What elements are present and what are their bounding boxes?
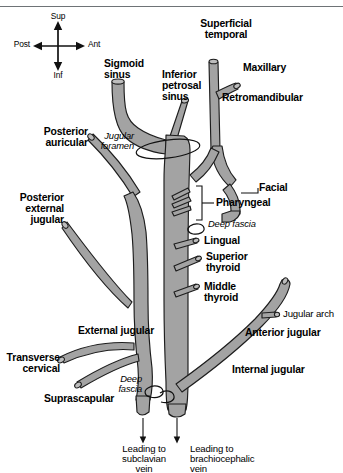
label-leading-to-brachiocephalic: Leading to brachiocephalic vein: [190, 444, 290, 473]
label-superior-thyroid: Superior thyroid: [206, 251, 248, 273]
label-retromandibular: Retromandibular: [222, 92, 303, 103]
posterior-external-jugular-vein: [61, 221, 132, 308]
compass-label-superior: Sup: [45, 12, 71, 21]
compass-label-inferior: Inf: [45, 71, 71, 80]
superficial-temporal-vein: [209, 59, 220, 150]
pharyngeal-bracket: [196, 186, 214, 220]
label-pharyngeal: Pharyngeal: [216, 197, 271, 208]
label-anterior-jugular: Anterior jugular: [245, 327, 321, 338]
label-external-jugular: External jugular: [78, 325, 154, 336]
internal-jugular-vein: [164, 135, 190, 417]
orientation-compass: [33, 21, 85, 71]
facial-leader-line: [241, 188, 258, 193]
label-sigmoid-sinus: Sigmoid sinus: [104, 58, 144, 80]
label-leading-to-subclavian: Leading to subclavian vein: [108, 444, 180, 473]
jugular-arch-vein: [262, 312, 280, 318]
label-deep-fascia-lower: Deep fascia: [96, 374, 142, 394]
label-maxillary: Maxillary: [243, 62, 286, 73]
deep-fascia-ring-upper: [188, 224, 204, 234]
label-internal-jugular: Internal jugular: [232, 364, 305, 375]
label-posterior-external-jugular: Posterior external jugular: [0, 192, 64, 225]
retromandibular-vein: [190, 146, 236, 187]
label-inferior-petrosal-sinus: Inferior petrosal sinus: [162, 69, 201, 102]
direction-arrows: [143, 418, 177, 440]
label-suprascapular: Suprascapular: [44, 393, 114, 404]
label-facial: Facial: [259, 182, 288, 193]
anatomical-figure: Sup Inf Ant Post Sigmoid sinus Inferior …: [0, 0, 343, 473]
label-lingual: Lingual: [204, 235, 240, 246]
label-middle-thyroid: Middle thyroid: [204, 281, 238, 303]
label-posterior-auricular: Posterior auricular: [0, 126, 88, 148]
compass-label-posterior: Post: [0, 40, 30, 49]
compass-label-anterior: Ant: [88, 40, 100, 49]
label-deep-fascia-upper: Deep fascia: [208, 219, 256, 229]
label-superficial-temporal: Superficial temporal: [180, 18, 272, 40]
label-jugular-arch: Jugular arch: [283, 309, 334, 319]
label-transverse-cervical: Transverse cervical: [0, 352, 60, 374]
